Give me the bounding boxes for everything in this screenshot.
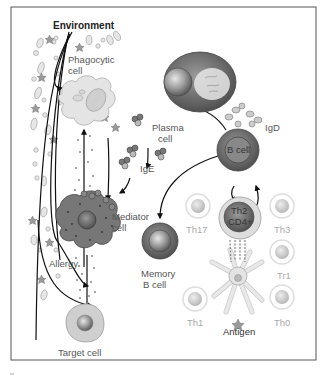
memory-b-cell-label-2: B cell — [143, 279, 166, 290]
target-cell-label: Target cell — [58, 347, 101, 358]
tr1-label: Tr1 — [277, 270, 291, 281]
th2-label: Th2 — [231, 205, 247, 216]
memory-b-cell-label-1: Memory — [141, 268, 176, 279]
th3-label: Th3 — [274, 224, 290, 235]
th0-label: Th0 — [274, 317, 290, 328]
igd-label: IgD — [265, 122, 280, 133]
ige-label: IgE — [140, 163, 154, 174]
memory-b-cell — [142, 223, 178, 259]
cd4-label: CD4+ — [228, 216, 253, 227]
b-cell-label: B cell — [227, 144, 250, 155]
plasma-cell-label-1: Plasma — [152, 122, 184, 133]
plasma-cell-label-2: cell — [158, 133, 172, 144]
th1-label: Th1 — [187, 317, 203, 328]
phagocytic-cell-label-2: cell — [68, 65, 82, 76]
diagram-figure: Environment Phagocytic cell — [0, 0, 324, 381]
th17-label: Th17 — [186, 224, 208, 235]
phagocytic-cell-label-1: Phagocytic — [68, 54, 115, 65]
mediator-cell-label-1: Mediator — [112, 211, 149, 222]
antigen-label: Antigen — [223, 326, 255, 337]
mediator-cell-label-2: cell — [112, 222, 126, 233]
phagocytic-cell — [59, 76, 116, 125]
environment-title: Environment — [53, 20, 115, 31]
target-cell — [66, 304, 104, 342]
mediator-cell — [56, 190, 121, 248]
allergy-label: Allergy — [49, 258, 78, 269]
plasma-cell — [164, 52, 236, 112]
